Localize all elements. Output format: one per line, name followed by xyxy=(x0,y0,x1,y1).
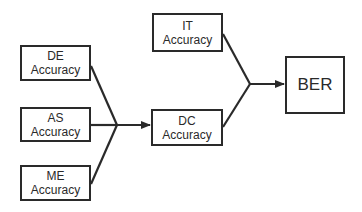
edge-it-merge xyxy=(223,34,250,84)
node-it-accuracy: IT Accuracy xyxy=(152,13,223,52)
node-sublabel: Accuracy xyxy=(163,33,212,47)
node-label: DE xyxy=(47,49,64,63)
node-label: DC xyxy=(178,114,195,128)
node-as-accuracy: AS Accuracy xyxy=(20,107,91,142)
node-label: AS xyxy=(47,111,63,125)
node-sublabel: Accuracy xyxy=(31,125,80,139)
node-ber: BER xyxy=(285,56,345,114)
node-sublabel: Accuracy xyxy=(31,63,80,77)
node-label: BER xyxy=(298,78,333,92)
node-me-accuracy: ME Accuracy xyxy=(20,165,91,201)
node-label: ME xyxy=(47,169,65,183)
node-sublabel: Accuracy xyxy=(162,128,211,142)
edge-de-merge xyxy=(91,66,117,125)
node-dc-accuracy: DC Accuracy xyxy=(151,109,223,146)
node-label: IT xyxy=(182,19,193,33)
node-de-accuracy: DE Accuracy xyxy=(20,45,91,81)
edge-me-merge xyxy=(91,125,117,184)
node-sublabel: Accuracy xyxy=(31,183,80,197)
edge-dc-merge xyxy=(223,84,250,127)
